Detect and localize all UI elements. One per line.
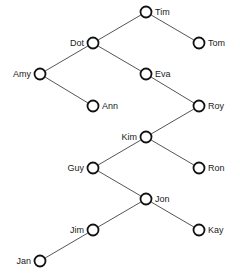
node-label: Kay	[208, 225, 224, 235]
node-circle	[88, 163, 99, 174]
node-label: Jon	[155, 194, 170, 204]
node-circle	[194, 38, 205, 49]
edge-tim-dot	[93, 12, 146, 43]
tree-node-jon: Jon	[141, 194, 170, 205]
nodes-group: TimDotTomAmyEvaAnnRoyKimGuyRonJonJimKayJ…	[13, 7, 225, 267]
tree-node-eva: Eva	[141, 69, 171, 80]
tree-node-ron: Ron	[194, 163, 225, 174]
tree-node-ann: Ann	[88, 101, 119, 112]
node-label: Guy	[67, 163, 84, 173]
node-label: Eva	[155, 69, 171, 79]
node-circle	[194, 163, 205, 174]
edge-kim-guy	[93, 137, 146, 168]
node-circle	[88, 225, 99, 236]
node-circle	[141, 194, 152, 205]
node-label: Tim	[155, 7, 170, 17]
node-label: Ron	[208, 163, 225, 173]
tree-node-tim: Tim	[141, 7, 170, 18]
node-circle	[194, 101, 205, 112]
node-label: Jan	[16, 256, 31, 266]
edge-tim-tom	[146, 12, 199, 43]
edge-dot-eva	[93, 43, 146, 74]
tree-node-roy: Roy	[194, 101, 225, 112]
node-circle	[88, 101, 99, 112]
node-circle	[141, 7, 152, 18]
node-label: Amy	[13, 69, 32, 79]
edge-amy-ann	[40, 74, 93, 106]
tree-node-guy: Guy	[67, 163, 98, 174]
tree-node-jan: Jan	[16, 256, 45, 267]
node-circle	[88, 38, 99, 49]
edge-jim-jan	[40, 230, 93, 261]
tree-node-kim: Kim	[122, 132, 152, 143]
node-circle	[141, 132, 152, 143]
node-circle	[35, 69, 46, 80]
edge-jon-jim	[93, 199, 146, 230]
edges-group	[40, 12, 199, 261]
node-label: Dot	[70, 38, 85, 48]
node-label: Roy	[208, 101, 225, 111]
edge-kim-ron	[146, 137, 199, 168]
node-circle	[35, 256, 46, 267]
tree-node-amy: Amy	[13, 69, 46, 80]
node-circle	[141, 69, 152, 80]
node-label: Ann	[102, 101, 118, 111]
tree-node-tom: Tom	[194, 38, 226, 49]
tree-node-kay: Kay	[194, 225, 225, 236]
edge-guy-jon	[93, 168, 146, 199]
tree-node-dot: Dot	[70, 38, 99, 49]
node-label: Tom	[208, 38, 225, 48]
edge-eva-roy	[146, 74, 199, 106]
node-circle	[194, 225, 205, 236]
node-label: Jim	[70, 225, 84, 235]
edge-dot-amy	[40, 43, 93, 74]
edge-roy-kim	[146, 106, 199, 137]
tree-node-jim: Jim	[70, 225, 99, 236]
edge-jon-kay	[146, 199, 199, 230]
node-label: Kim	[122, 132, 138, 142]
tree-diagram: TimDotTomAmyEvaAnnRoyKimGuyRonJonJimKayJ…	[0, 0, 240, 279]
